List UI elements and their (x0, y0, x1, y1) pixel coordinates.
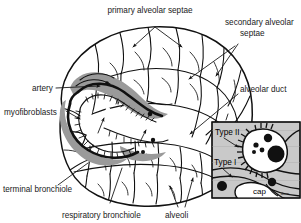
label-secondary-alveolar-septae-line2: septae (240, 29, 265, 38)
label-alveoli: alveoli (165, 211, 188, 220)
lamellar-body (252, 150, 256, 154)
lamellar-body (253, 142, 258, 147)
label-cap: cap (253, 187, 266, 196)
label-secondary-alveolar-septae-line1: secondary alveolar (225, 18, 294, 27)
label-alveolar-duct: alveolar duct (240, 85, 287, 94)
alveolar-diagram-figure: primary alveolar septae secondary alveol… (0, 0, 301, 223)
label-primary-alveolar-septae: primary alveolar septae (107, 6, 193, 15)
type-ii-nucleus (268, 146, 285, 163)
label-artery: artery (32, 84, 54, 93)
label-type-ii: Type II (215, 128, 240, 137)
endothelial-nucleus (268, 178, 276, 186)
lamellar-body (260, 148, 265, 153)
label-signature: dwm (281, 191, 290, 196)
label-respiratory-bronchiole: respiratory bronchiole (62, 211, 141, 220)
nucleus-dot (141, 150, 145, 154)
endothelial-nucleus (217, 181, 227, 191)
diagram-canvas: primary alveolar septae secondary alveol… (0, 0, 301, 223)
nucleus-dot (148, 112, 153, 117)
nucleus-dot (151, 138, 155, 142)
label-myofibroblasts: myofibroblasts (4, 108, 57, 117)
lamellar-body (264, 134, 272, 142)
label-type-i: Type I (214, 158, 236, 167)
label-terminal-bronchiole: terminal bronchiole (3, 185, 73, 194)
